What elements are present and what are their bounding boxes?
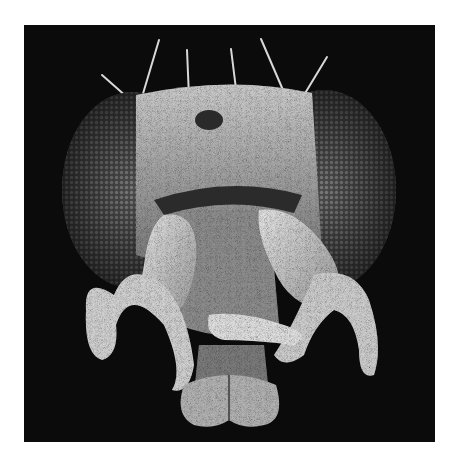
micrograph-frame [24, 25, 435, 442]
fly-head-micrograph [24, 25, 435, 442]
proboscis [208, 314, 302, 345]
